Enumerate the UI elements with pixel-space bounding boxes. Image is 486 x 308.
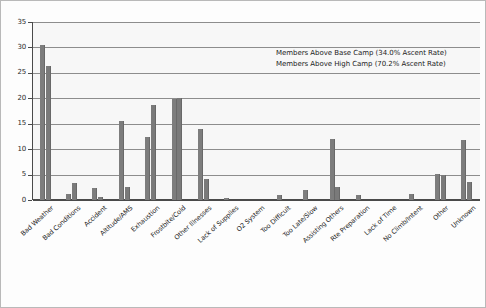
bar-altitude-ams-series1 [119,121,124,200]
bar-other-series2 [441,175,446,200]
bar-exhaustion-series2 [151,105,156,200]
bar-lack-of-supplies-series1 [224,198,229,200]
bar-bad-conditions-series1 [66,194,71,200]
bar-other-series1 [435,174,440,200]
bar-frostbite-cold-series2 [177,98,182,200]
bar-other-illnesses-series1 [198,129,203,200]
bar-unknown-series1 [461,140,466,200]
legend: Members Above Base Camp (34.0% Ascent Ra… [276,48,447,70]
bar-bad-weather-series2 [46,66,51,200]
bar-no-climb-intent-series1 [409,194,414,200]
bar-bad-weather-series1 [40,45,45,200]
legend-item-high-camp: Members Above High Camp (70.2% Ascent Ra… [276,59,447,70]
bar-frostbite-cold-series1 [172,99,177,200]
bar-unknown-series2 [467,182,472,200]
bar-too-late-slow-series1 [303,190,308,200]
x-axis-labels: Bad WeatherBad ConditionsAccidentAltitud… [32,202,480,308]
bar-accident-series1 [92,188,97,200]
legend-item-base-camp: Members Above Base Camp (34.0% Ascent Ra… [276,48,447,59]
bar-assisting-others-series1 [330,139,335,200]
bar-rte-preparation-series1 [356,195,361,200]
bar-too-difficult-series1 [277,195,282,200]
bar-altitude-ams-series2 [125,187,130,200]
bar-assisting-others-series2 [335,187,340,200]
bar-bad-conditions-series2 [72,183,77,200]
bar-chart: 05101520253035 Bad WeatherBad Conditions… [0,0,486,308]
bar-accident-series2 [98,197,103,200]
bar-other-illnesses-series2 [204,179,209,200]
bar-exhaustion-series1 [145,137,150,200]
